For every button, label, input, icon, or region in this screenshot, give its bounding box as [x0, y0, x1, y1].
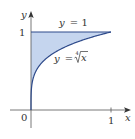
shaded-region: [31, 32, 111, 110]
chart: y 1 0 1 x y = 1 y = 4 x: [0, 0, 135, 139]
y-axis-label: y: [20, 9, 27, 20]
line-label: y = 1: [58, 17, 88, 28]
line-label-eq: = 1: [70, 17, 88, 28]
root-index: 4: [76, 50, 79, 56]
origin-label: 0: [21, 112, 27, 123]
y-tick-label-1: 1: [19, 27, 25, 38]
line-label-var: y: [58, 17, 65, 28]
x-tick-label-1: 1: [108, 115, 114, 126]
x-axis-label: x: [125, 112, 131, 123]
curve-label-var: y: [53, 53, 60, 64]
curve-label-eq: =: [65, 53, 73, 64]
radicand: x: [81, 52, 87, 63]
curve-label: y =: [53, 53, 73, 64]
